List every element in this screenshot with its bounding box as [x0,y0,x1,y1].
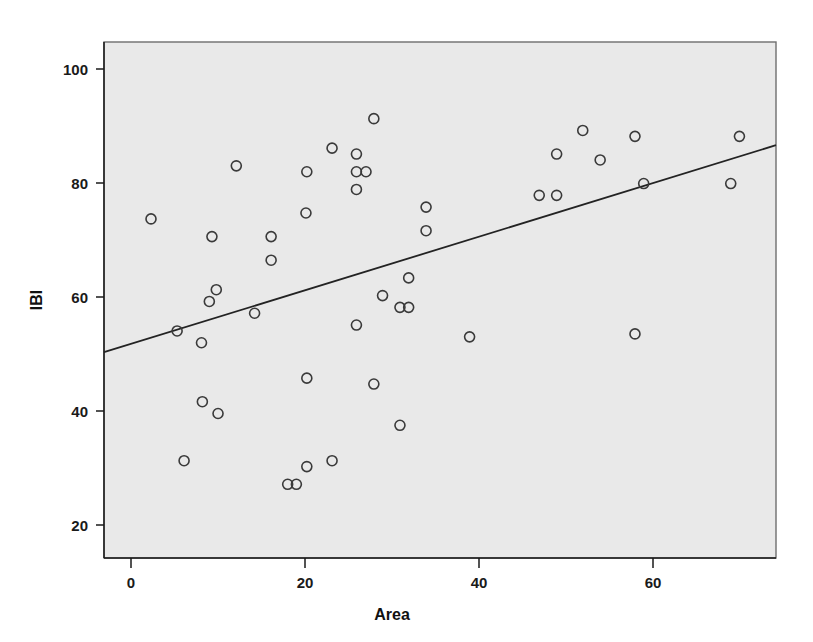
y-tick-label-20: 20 [71,517,88,534]
y-axis-ticks [96,69,104,525]
x-axis-ticks [131,558,653,568]
y-tick-label-80: 80 [71,175,88,192]
x-tick-label-0: 0 [127,574,135,591]
x-axis-title: Area [374,606,410,623]
y-tick-label-40: 40 [71,403,88,420]
y-tick-label-60: 60 [71,289,88,306]
x-tick-label-40: 40 [471,574,488,591]
y-tick-label-100: 100 [63,61,88,78]
y-axis-title: IBI [28,290,45,310]
chart-canvas: 100 80 60 40 20 0 20 40 60 Area IBI [0,0,813,642]
x-tick-label-20: 20 [297,574,314,591]
x-tick-label-60: 60 [645,574,662,591]
scatter-chart: 100 80 60 40 20 0 20 40 60 Area IBI [0,0,813,642]
